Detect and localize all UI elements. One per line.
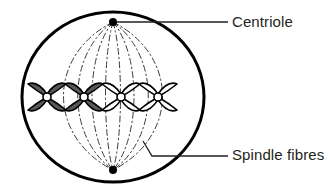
chromosome-4-centromere xyxy=(154,93,162,101)
chromosome-3-centromere xyxy=(117,93,125,101)
centriole-bottom xyxy=(109,166,117,174)
chromosome-1-centromere xyxy=(43,93,51,101)
centriole-label: Centriole xyxy=(232,13,293,30)
mitosis-diagram: Centriole Spindle fibres xyxy=(0,0,332,192)
chromosome-2-centromere xyxy=(80,93,88,101)
cell-diagram-canvas: Centriole Spindle fibres xyxy=(0,0,332,192)
centriole-top xyxy=(109,18,117,26)
spindle-fibres-label: Spindle fibres xyxy=(232,146,324,163)
